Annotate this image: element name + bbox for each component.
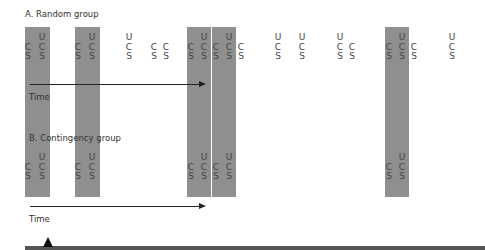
baseline-bar bbox=[25, 246, 485, 250]
stimulus-column: CS bbox=[186, 33, 196, 62]
cs-label-s: S bbox=[73, 52, 83, 62]
cs-label-s: S bbox=[297, 52, 307, 62]
stimulus-column: UCS bbox=[199, 153, 209, 182]
stimulus-column: CS bbox=[186, 153, 196, 182]
cs-label-s: S bbox=[384, 172, 394, 182]
stimulus-column: CS bbox=[384, 33, 394, 62]
stimulus-column: CS bbox=[347, 33, 357, 62]
stimulus-column: UCS bbox=[37, 33, 47, 62]
cs-label-s: S bbox=[37, 52, 47, 62]
cs-label-s: S bbox=[384, 52, 394, 62]
cs-label-s: S bbox=[347, 52, 357, 62]
cs-label-s: S bbox=[397, 172, 407, 182]
stimulus-column: UCS bbox=[124, 33, 134, 62]
stimulus-column: UCS bbox=[297, 33, 307, 62]
stimulus-column: CS bbox=[211, 33, 221, 62]
cs-label-s: S bbox=[409, 52, 419, 62]
stimulus-column: CS bbox=[23, 153, 33, 182]
stimulus-column: UCS bbox=[397, 33, 407, 62]
cs-label-s: S bbox=[186, 52, 196, 62]
stimulus-column: UCS bbox=[447, 33, 457, 62]
cs-label-s: S bbox=[447, 52, 457, 62]
cs-label-s: S bbox=[199, 52, 209, 62]
cs-label-s: S bbox=[199, 172, 209, 182]
cs-label-s: S bbox=[335, 52, 345, 62]
cs-label-s: S bbox=[273, 52, 283, 62]
cs-label-s: S bbox=[149, 52, 159, 62]
stimulus-column: CS bbox=[409, 33, 419, 62]
cs-label-s: S bbox=[161, 52, 171, 62]
stimulus-column: UCS bbox=[335, 33, 345, 62]
time-arrow-b bbox=[30, 206, 200, 207]
stimulus-column: CS bbox=[149, 33, 159, 62]
stimulus-column: CS bbox=[384, 153, 394, 182]
cs-label-s: S bbox=[23, 172, 33, 182]
stimulus-column: UCS bbox=[199, 33, 209, 62]
stimulus-column: CS bbox=[211, 153, 221, 182]
stimulus-column: CS bbox=[73, 153, 83, 182]
cs-label-s: S bbox=[224, 172, 234, 182]
cs-label-s: S bbox=[23, 52, 33, 62]
stimulus-column: CS bbox=[73, 33, 83, 62]
time-label-b: Time bbox=[29, 214, 50, 224]
cs-label-s: S bbox=[37, 172, 47, 182]
cs-label-s: S bbox=[211, 172, 221, 182]
cs-label-s: S bbox=[73, 172, 83, 182]
stimulus-column: UCS bbox=[224, 153, 234, 182]
cs-label-s: S bbox=[397, 52, 407, 62]
stimulus-column: CS bbox=[23, 33, 33, 62]
stimulus-column: UCS bbox=[224, 33, 234, 62]
cs-label-s: S bbox=[211, 52, 221, 62]
panel-b-title: B. Contingency group bbox=[29, 133, 121, 143]
cs-label-s: S bbox=[224, 52, 234, 62]
cs-label-s: S bbox=[87, 52, 97, 62]
stimulus-column: UCS bbox=[397, 153, 407, 182]
triangle-marker-icon bbox=[43, 237, 53, 247]
stimulus-column: UCS bbox=[37, 153, 47, 182]
time-label-a: Time bbox=[29, 92, 50, 102]
cs-label-s: S bbox=[236, 52, 246, 62]
stimulus-column: UCS bbox=[87, 153, 97, 182]
cs-label-s: S bbox=[124, 52, 134, 62]
stimulus-column: UCS bbox=[87, 33, 97, 62]
cs-label-s: S bbox=[186, 172, 196, 182]
stimulus-column: UCS bbox=[273, 33, 283, 62]
time-arrow-a bbox=[30, 84, 200, 85]
panel-a-title: A. Random group bbox=[25, 9, 99, 19]
stimulus-column: CS bbox=[236, 33, 246, 62]
cs-label-s: S bbox=[87, 172, 97, 182]
stimulus-column: CS bbox=[161, 33, 171, 62]
